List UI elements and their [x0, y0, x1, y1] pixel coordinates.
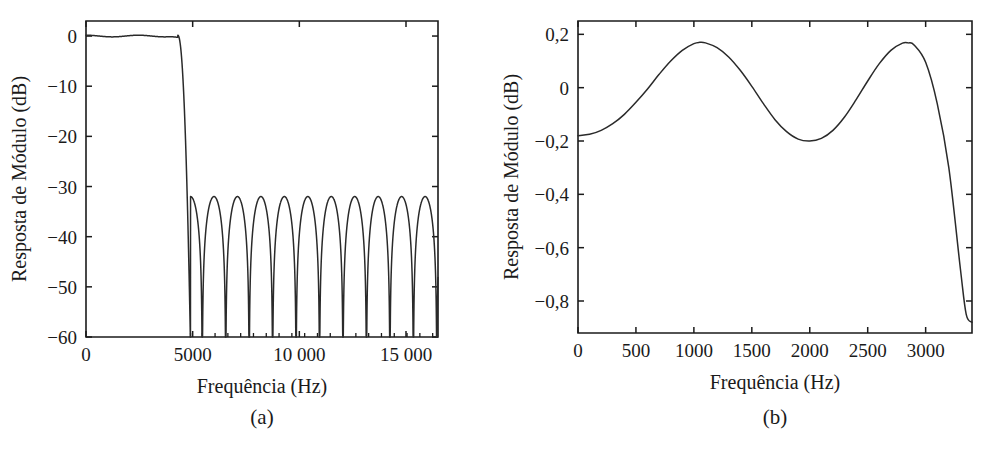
chart-b-x-ticks	[578, 21, 926, 333]
chart-b-y-ticklabel: −0,4	[535, 184, 570, 205]
chart-a-x-ticklabel: 15 000	[380, 344, 432, 365]
chart-a-y-ticklabel: −10	[47, 76, 77, 97]
chart-b-y-ticklabel: −0,2	[535, 131, 569, 152]
chart-b-svg: 050010001500200025003000 0,20−0,2−0,4−0,…	[490, 0, 985, 450]
chart-b-x-axis-title: Frequência (Hz)	[710, 371, 841, 394]
chart-a-data-curve	[86, 35, 438, 337]
chart-a-x-ticklabel: 5000	[174, 344, 212, 365]
chart-a-y-ticklabel: −60	[47, 327, 77, 348]
chart-b-y-ticklabel: −0,8	[535, 291, 569, 312]
chart-b-y-ticklabels: 0,20−0,2−0,4−0,6−0,8	[535, 24, 570, 312]
chart-a-y-axis-title: Resposta de Módulo (dB)	[8, 76, 31, 282]
chart-a-y-ticklabel: −30	[47, 177, 77, 198]
chart-a-caption: (a)	[250, 405, 273, 429]
chart-b-x-ticklabel: 0	[573, 340, 583, 361]
chart-b-y-ticklabel: 0	[560, 78, 570, 99]
chart-b-x-ticklabel: 3000	[907, 340, 945, 361]
chart-b-axis-frame	[578, 21, 972, 333]
chart-b-y-ticklabel: −0,6	[535, 238, 569, 259]
chart-b-y-ticks	[578, 34, 972, 301]
chart-b-x-ticklabel: 1500	[733, 340, 771, 361]
chart-b-caption: (b)	[763, 405, 788, 429]
chart-a-y-ticklabel: −20	[47, 126, 77, 147]
chart-a-svg: 0500010 00015 000 0−10−20−30−40−50−60 Fr…	[0, 0, 490, 450]
chart-b-y-ticklabel: 0,2	[545, 24, 569, 45]
chart-a-axis-frame	[86, 21, 438, 337]
chart-b-x-ticklabel: 2500	[849, 340, 887, 361]
chart-a-y-ticks	[86, 36, 438, 337]
chart-b-x-ticklabel: 500	[622, 340, 651, 361]
figure-container: 0500010 00015 000 0−10−20−30−40−50−60 Fr…	[0, 0, 985, 450]
chart-a-y-ticklabel: −50	[47, 277, 77, 298]
chart-b-x-ticklabel: 1000	[675, 340, 713, 361]
chart-a-x-ticklabels: 0500010 00015 000	[81, 344, 432, 365]
chart-a-y-ticklabel: −40	[47, 227, 77, 248]
chart-a-y-ticklabel: 0	[68, 26, 78, 47]
chart-a-y-ticklabels: 0−10−20−30−40−50−60	[47, 26, 77, 348]
chart-panel-b: 050010001500200025003000 0,20−0,2−0,4−0,…	[490, 0, 985, 450]
chart-a-x-axis-title: Frequência (Hz)	[197, 375, 328, 398]
chart-b-x-ticklabel: 2000	[791, 340, 829, 361]
chart-panel-a: 0500010 00015 000 0−10−20−30−40−50−60 Fr…	[0, 0, 490, 450]
chart-b-y-axis-title: Resposta de Módulo (dB)	[500, 74, 523, 280]
chart-a-x-ticks	[86, 21, 433, 337]
chart-b-x-ticklabels: 050010001500200025003000	[573, 340, 944, 361]
chart-b-data-curve	[578, 42, 972, 322]
chart-a-x-ticklabel: 0	[81, 344, 91, 365]
chart-a-x-ticklabel: 10 000	[273, 344, 325, 365]
